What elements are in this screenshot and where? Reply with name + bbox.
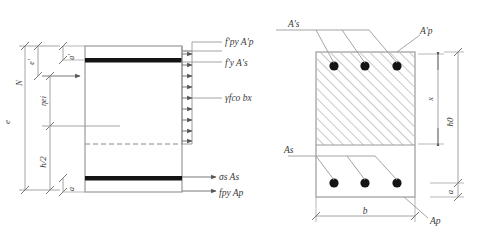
- label-top-prestress-area: A'p: [419, 26, 433, 36]
- leader-top-prestress-label: [397, 35, 420, 52]
- label-concrete-block-force: γfco bx: [225, 93, 252, 103]
- figure-canvas: N e e' ηei h/2 a' a f'py A'p f'y A's γfc…: [0, 0, 477, 241]
- label-top-steel-force: f'y A's: [225, 58, 248, 68]
- label-top-prestress-force: f'py A'p: [225, 37, 254, 47]
- label-cover-a: a: [445, 190, 455, 194]
- label-effective-depth-h0: h0: [445, 117, 455, 127]
- engineering-figure: N e e' ηei h/2 a' a f'py A'p f'y A's γfc…: [0, 0, 477, 241]
- label-compression-depth-x: x: [425, 97, 435, 102]
- label-top-steel-area: A's: [287, 19, 300, 29]
- label-bottom-steel-area: As: [283, 145, 294, 155]
- top-reinforcement-band: [85, 58, 182, 63]
- label-h-half: h/2: [38, 156, 48, 168]
- concrete-stress-arrows: [182, 54, 192, 141]
- member-outline: [85, 46, 182, 192]
- label-bottom-prestress-area: Ap: [429, 216, 441, 226]
- right-cross-section-diagram: A's A'p As Ap x h0 a b: [276, 19, 464, 226]
- label-width-b: b: [363, 206, 368, 216]
- bottom-reinforcement-band: [85, 176, 182, 181]
- label-e: e: [2, 120, 12, 124]
- label-a-prime-top: a': [67, 54, 76, 60]
- label-bottom-prestress-force: fpy Ap: [219, 188, 244, 198]
- left-stress-diagram: N e e' ηei h/2 a' a f'py A'p f'y A's γfc…: [2, 37, 254, 198]
- label-bottom-steel-force: σs As: [219, 172, 239, 182]
- label-eta-ei: ηei: [39, 96, 48, 106]
- label-a-bottom: a: [67, 187, 76, 191]
- label-axial-force-N: N: [14, 79, 24, 87]
- label-e-prime: e': [27, 59, 36, 65]
